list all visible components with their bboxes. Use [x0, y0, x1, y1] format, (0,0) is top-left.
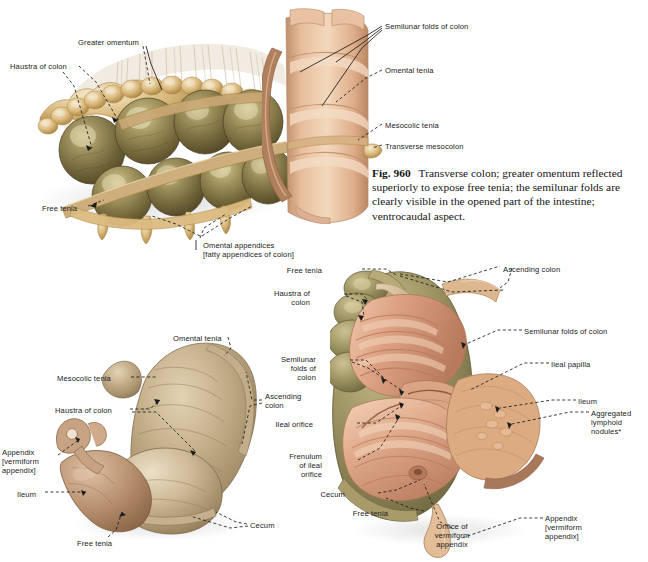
label-appendix-bl: Appendix [vermiform appendix] — [2, 448, 39, 476]
omental-tenia-band — [118, 92, 264, 130]
label-ileum-bl: Ileum — [17, 490, 36, 499]
label-mesocolic-tenia-top: Mesocolic tenia — [385, 121, 439, 130]
label-cecum-bl: Cecum — [250, 521, 275, 530]
label-frenulum-ileal-orifice: Frenulum of ileal orifice — [256, 452, 322, 480]
label-ileal-papilla: Ileal papilla — [551, 360, 590, 369]
free-tenia-band — [62, 142, 288, 218]
label-semilunar-folds-br-r: Semilunar folds of colon — [524, 327, 607, 336]
bottom-left-leaders — [45, 337, 262, 537]
opened-intestine-segment — [260, 9, 369, 224]
omental-appendices — [70, 198, 252, 244]
haustra-upper-row — [59, 90, 283, 184]
label-omental-tenia-bl: Omental tenia — [173, 334, 222, 343]
anatomy-illustration-layer — [0, 0, 648, 562]
omental-tenia-band-bl — [206, 344, 254, 456]
omentum-fat-fringe — [38, 76, 275, 134]
anatomy-plate: Haustra of colon Greater omentum Free te… — [0, 0, 648, 562]
label-ascending-colon-br: Ascending colon — [503, 265, 560, 274]
label-aggregated-lymphoid-nodules: Aggregated lymphoid nodules* — [591, 409, 631, 437]
bottom-right-leaders — [344, 266, 589, 540]
label-free-tenia-top: Free tenia — [42, 204, 77, 213]
top-figure-leaders — [63, 26, 382, 250]
label-mesocolic-tenia-bl: Mesocolic tenia — [57, 374, 111, 383]
label-free-tenia-br-bottom: Free tenia — [331, 509, 388, 518]
bottom-left-arrowheads — [75, 399, 196, 517]
label-transverse-mesocolon: Transverse mesocolon — [385, 142, 464, 151]
label-omental-tenia-top: Omental tenia — [385, 66, 434, 75]
label-haustra-of-colon-bl: Haustra of colon — [55, 406, 112, 415]
top-figure-arrowheads — [86, 117, 118, 208]
label-greater-omentum: Greater omentum — [78, 38, 139, 47]
label-free-tenia-bl: Free tenia — [77, 539, 112, 548]
bottom-right-arrowheads — [358, 299, 512, 429]
label-haustra-of-colon-top: Haustra of colon — [10, 62, 67, 71]
label-appendix-br: Appendix [vermiform appendix] — [545, 514, 582, 542]
label-ileal-orifice: Ileal orifice — [248, 420, 313, 429]
label-omental-appendices: Omental appendices [fatty appendices of … — [203, 241, 294, 259]
mesocolic-tenia-band — [288, 136, 368, 150]
label-free-tenia-br-top: Free tenia — [262, 266, 322, 275]
label-cecum-br: Cecum — [288, 490, 345, 499]
label-semilunar-folds-top: Semilunar folds of colon — [385, 22, 468, 31]
ascending-colon-stump-br — [442, 279, 502, 302]
bottom-left-figure-artwork — [56, 343, 256, 541]
ileal-papilla-group — [400, 381, 463, 416]
transverse-mesocolon-tag — [364, 144, 382, 158]
label-semilunar-folds-br-l: Semilunar folds of colon — [254, 355, 316, 383]
appendix-orifice — [409, 466, 427, 480]
caption-fig-number: Fig. 960 — [372, 167, 411, 179]
label-haustra-of-colon-br: Haustra of colon — [254, 289, 310, 307]
label-orifice-vermiform-appendix: Orifice of vermiform appendix — [424, 522, 480, 550]
label-ascending-colon-bl: Ascending colon — [265, 392, 301, 410]
haustra-lower-row — [92, 148, 294, 226]
ileum-stump — [446, 374, 544, 489]
appendix-coil-bl — [56, 419, 106, 474]
figure-caption: Fig. 960Transverse colon; greater omentu… — [372, 166, 640, 223]
free-tenia-band-bl — [122, 508, 216, 525]
label-ileum-br: Ileum — [578, 397, 597, 406]
